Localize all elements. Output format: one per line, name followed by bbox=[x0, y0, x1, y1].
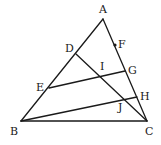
point-labels: ABCDEFGHIJ bbox=[10, 3, 153, 138]
geometry-diagram: ABCDEFGHIJ bbox=[0, 0, 161, 145]
label-b: B bbox=[10, 125, 18, 138]
label-c: C bbox=[145, 125, 153, 138]
label-e: E bbox=[36, 81, 44, 94]
label-f: F bbox=[118, 38, 126, 51]
label-h: H bbox=[140, 90, 150, 103]
label-g: G bbox=[128, 64, 137, 77]
label-a: A bbox=[98, 3, 108, 16]
segment-eg bbox=[49, 71, 125, 88]
label-d: D bbox=[65, 42, 74, 55]
point-dot-f bbox=[113, 43, 116, 46]
label-j: J bbox=[117, 101, 122, 114]
marked-points bbox=[113, 43, 116, 46]
segment-ab bbox=[21, 19, 103, 121]
label-i: I bbox=[100, 60, 104, 73]
segment-ac bbox=[103, 19, 147, 121]
